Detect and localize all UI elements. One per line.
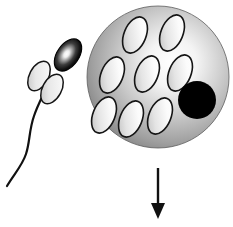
sperm-cell-group [7,34,87,186]
sperm-head-acrosome [49,34,88,76]
egg-cell-group [87,6,229,148]
fertilization-diagram [0,0,233,227]
egg-nucleus-dark-body [178,81,216,119]
downward-arrow [151,168,165,219]
arrow-head [151,203,165,219]
figure-root [0,0,233,227]
